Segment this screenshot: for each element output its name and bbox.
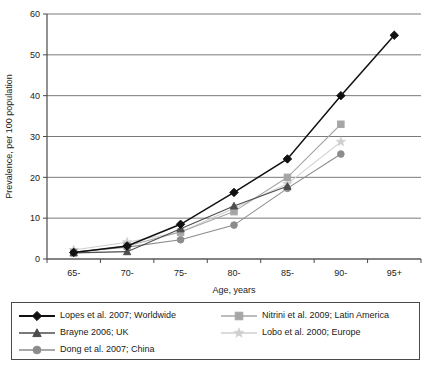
legend-item-label: Dong et al. 2007; China <box>60 345 155 354</box>
data-series-layer <box>69 31 399 257</box>
x-tick-label: 95+ <box>387 268 402 278</box>
data-point-square <box>284 174 290 180</box>
plot-area: 0102030405060 65-70-75-80-85-90-95+ Prev… <box>0 0 434 295</box>
legend-swatch-diamond <box>18 309 56 323</box>
series-line <box>74 154 341 252</box>
legend-marker-diamond-icon <box>18 309 56 323</box>
legend-item[interactable]: Lopes et al. 2007; Worldwide <box>18 307 218 324</box>
legend-swatch-circle <box>18 343 56 357</box>
y-tick-label: 30 <box>30 132 40 142</box>
x-tick-label: 65- <box>67 268 80 278</box>
legend-marker-square-icon <box>220 309 258 323</box>
data-point-square <box>235 312 243 320</box>
data-point-star <box>234 327 244 337</box>
data-point-diamond <box>230 188 238 196</box>
x-tick-label: 70- <box>121 268 134 278</box>
x-tick-label: 75- <box>174 268 187 278</box>
data-point-triangle <box>230 202 237 209</box>
legend-column-left: Lopes et al. 2007; WorldwideBrayne 2006;… <box>18 307 218 358</box>
legend-item-label: Brayne 2006; UK <box>60 328 129 337</box>
x-tick-labels: 65-70-75-80-85-90-95+ <box>67 268 402 278</box>
line-chart-svg: 0102030405060 65-70-75-80-85-90-95+ Prev… <box>0 0 434 295</box>
legend-swatch-triangle <box>18 326 56 340</box>
series-2 <box>70 151 344 256</box>
chart-figure: 0102030405060 65-70-75-80-85-90-95+ Prev… <box>0 0 434 369</box>
legend-item-label: Nitrini et al. 2009; Latin America <box>262 311 389 320</box>
x-tick-label: 80- <box>227 268 240 278</box>
y-tick-label: 40 <box>30 91 40 101</box>
x-tick-label: 90- <box>334 268 347 278</box>
y-axis-title: Prevalence, per 100 population <box>4 74 14 199</box>
legend-swatch-star <box>220 326 258 340</box>
y-tick-label: 10 <box>30 213 40 223</box>
series-line <box>74 35 395 252</box>
legend-marker-circle-icon <box>18 343 56 357</box>
data-point-circle <box>231 222 238 229</box>
legend-item[interactable]: Nitrini et al. 2009; Latin America <box>220 307 418 324</box>
y-tick-label: 50 <box>30 50 40 60</box>
legend-swatch-square <box>220 309 258 323</box>
y-tick-label: 20 <box>30 173 40 183</box>
data-point-square <box>338 121 344 127</box>
series-4 <box>69 137 346 254</box>
legend-item-label: Lopes et al. 2007; Worldwide <box>60 311 176 320</box>
legend-marker-star-icon <box>220 326 258 340</box>
y-tick-label: 0 <box>35 254 40 264</box>
legend-item-label: Lobo et al. 2000; Europe <box>262 328 361 337</box>
series-1 <box>70 183 291 256</box>
data-point-circle <box>338 151 345 158</box>
y-tick-labels: 0102030405060 <box>30 9 40 264</box>
data-point-circle <box>177 236 184 243</box>
series-line <box>74 142 341 250</box>
x-axis-title: Age, years <box>212 285 256 295</box>
x-tick-label: 85- <box>281 268 294 278</box>
data-point-diamond <box>32 311 41 320</box>
y-tick-label: 60 <box>30 9 40 19</box>
data-point-circle <box>33 346 41 354</box>
legend-marker-triangle-icon <box>18 326 56 340</box>
legend-item[interactable]: Dong et al. 2007; China <box>18 341 218 358</box>
legend-item[interactable]: Lobo et al. 2000; Europe <box>220 324 418 341</box>
chart-legend: Lopes et al. 2007; WorldwideBrayne 2006;… <box>11 302 420 360</box>
legend-column-right: Nitrini et al. 2009; Latin AmericaLobo e… <box>220 307 418 341</box>
legend-item[interactable]: Brayne 2006; UK <box>18 324 218 341</box>
